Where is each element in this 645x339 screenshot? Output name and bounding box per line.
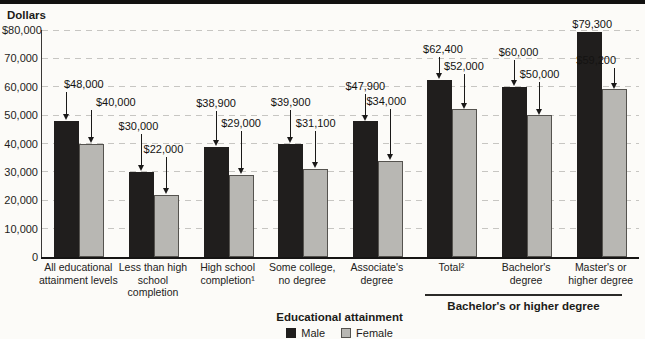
x-axis-line bbox=[41, 257, 639, 259]
bar-value-label: $39,900 bbox=[271, 96, 311, 108]
bracket-line bbox=[425, 294, 622, 296]
top-rule bbox=[0, 0, 645, 4]
bar-value-label: $30,000 bbox=[119, 120, 159, 132]
down-arrow-icon bbox=[91, 110, 92, 139]
down-arrow-head-icon bbox=[312, 162, 318, 168]
down-arrow-icon bbox=[166, 157, 167, 190]
legend-label-female: Female bbox=[356, 327, 393, 339]
chart-figure: Dollars $80,00070,00060,00050,00040,0003… bbox=[0, 0, 645, 339]
bar-male-4 bbox=[353, 121, 378, 257]
down-arrow-head-icon bbox=[213, 140, 219, 146]
down-arrow-head-icon bbox=[138, 165, 144, 171]
bar-value-label: $31,100 bbox=[296, 117, 336, 129]
bar-male-0 bbox=[54, 121, 79, 257]
down-arrow-icon bbox=[290, 110, 291, 139]
y-tick-label: 0 bbox=[2, 251, 38, 263]
down-arrow-icon bbox=[241, 131, 242, 170]
bar-value-label: $52,000 bbox=[444, 60, 484, 72]
x-axis-title: Educational attainment bbox=[41, 311, 638, 323]
bar-male-5 bbox=[427, 80, 452, 257]
legend: Male Female bbox=[41, 327, 638, 339]
bar-male-6 bbox=[502, 87, 527, 257]
male-swatch-icon bbox=[286, 328, 296, 338]
legend-label-male: Male bbox=[301, 327, 325, 339]
y-tick-label: 20,000 bbox=[2, 194, 38, 206]
y-tick-label: 60,000 bbox=[2, 81, 38, 93]
bar-female-3 bbox=[303, 169, 328, 257]
bar-value-label: $62,400 bbox=[423, 43, 463, 55]
down-arrow-icon bbox=[439, 57, 440, 75]
plot-area: $80,00070,00060,00050,00040,00030,00020,… bbox=[41, 30, 639, 257]
bar-female-2 bbox=[229, 175, 254, 257]
category-label-2: High school completion¹ bbox=[188, 261, 268, 286]
y-tick-label: 30,000 bbox=[2, 166, 38, 178]
down-arrow-head-icon bbox=[461, 103, 467, 109]
bar-female-5 bbox=[452, 109, 477, 257]
grid-line bbox=[42, 86, 639, 87]
down-arrow-icon bbox=[216, 111, 217, 142]
bar-male-3 bbox=[278, 144, 303, 257]
y-tick-label: $80,000 bbox=[2, 24, 38, 36]
bar-female-4 bbox=[378, 161, 403, 257]
category-label-0: All educational attainment levels bbox=[38, 261, 118, 286]
down-arrow-head-icon bbox=[436, 73, 442, 79]
bar-value-label: $40,000 bbox=[96, 96, 136, 108]
down-arrow-head-icon bbox=[163, 188, 169, 194]
y-tick-label: 50,000 bbox=[2, 109, 38, 121]
category-label-6: Bachelor's degree bbox=[486, 261, 566, 286]
bar-female-0 bbox=[79, 144, 104, 258]
category-label-4: Associate's degree bbox=[337, 261, 417, 286]
bar-value-label: $59,200 bbox=[576, 54, 616, 66]
bar-value-label: $50,000 bbox=[520, 68, 560, 80]
bar-female-6 bbox=[527, 115, 552, 257]
bar-female-1 bbox=[154, 195, 179, 257]
category-label-1: Less than high school completion bbox=[113, 261, 193, 299]
down-arrow-icon bbox=[141, 134, 142, 167]
down-arrow-icon bbox=[464, 74, 465, 104]
bar-female-7 bbox=[602, 89, 627, 257]
legend-item-male: Male bbox=[286, 327, 325, 339]
bar-value-label: $38,900 bbox=[196, 97, 236, 109]
down-arrow-icon bbox=[315, 131, 316, 164]
y-tick-label: 10,000 bbox=[2, 223, 38, 235]
down-arrow-head-icon bbox=[63, 114, 69, 120]
down-arrow-head-icon bbox=[238, 168, 244, 174]
bar-value-label: $60,000 bbox=[499, 46, 539, 58]
down-arrow-head-icon bbox=[287, 137, 293, 143]
bar-value-label: $47,900 bbox=[345, 80, 385, 92]
legend-item-female: Female bbox=[341, 327, 393, 339]
down-arrow-head-icon bbox=[387, 154, 393, 160]
down-arrow-head-icon bbox=[511, 80, 517, 86]
bar-male-1 bbox=[129, 172, 154, 257]
down-arrow-icon bbox=[390, 109, 391, 156]
bar-value-label: $79,300 bbox=[572, 18, 612, 30]
bar-value-label: $29,000 bbox=[221, 117, 261, 129]
grid-line bbox=[42, 58, 639, 59]
bar-male-2 bbox=[204, 147, 229, 257]
category-label-3: Some college, no degree bbox=[262, 261, 342, 286]
down-arrow-head-icon bbox=[536, 109, 542, 115]
down-arrow-head-icon bbox=[611, 83, 617, 89]
down-arrow-icon bbox=[66, 92, 67, 116]
down-arrow-icon bbox=[514, 60, 515, 82]
category-label-5: Total² bbox=[411, 261, 491, 274]
y-axis-title: Dollars bbox=[7, 9, 46, 21]
down-arrow-icon bbox=[539, 82, 540, 110]
down-arrow-head-icon bbox=[362, 115, 368, 121]
y-tick-label: 70,000 bbox=[2, 52, 38, 64]
female-swatch-icon bbox=[341, 328, 351, 338]
category-label-7: Master's or higher degree bbox=[561, 261, 641, 286]
bar-value-label: $22,000 bbox=[144, 143, 184, 155]
y-tick-label: 40,000 bbox=[2, 138, 38, 150]
bar-value-label: $34,000 bbox=[366, 95, 406, 107]
grid-line bbox=[42, 30, 639, 31]
bar-value-label: $48,000 bbox=[64, 78, 104, 90]
down-arrow-head-icon bbox=[88, 137, 94, 143]
